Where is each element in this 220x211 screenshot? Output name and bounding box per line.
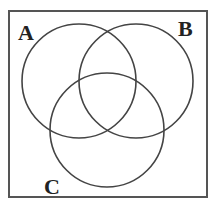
label-c: C	[44, 174, 60, 199]
label-b: B	[178, 16, 193, 41]
label-a: A	[18, 20, 34, 45]
venn-diagram: A B C	[0, 0, 220, 211]
